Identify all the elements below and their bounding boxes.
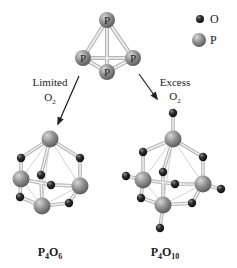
legend-oxygen-icon	[196, 15, 204, 23]
svg-text:P: P	[104, 14, 110, 26]
svg-text:P: P	[104, 66, 110, 78]
svg-text:P: P	[130, 52, 136, 64]
legend-phosphorus-icon	[192, 33, 206, 47]
svg-text:P: P	[80, 52, 86, 64]
p4o6-bonds	[20, 139, 80, 206]
p4o10-formula: P4O10	[151, 245, 180, 261]
p4o10-bonds	[126, 113, 221, 228]
arrow-excess-icon	[139, 74, 157, 99]
arrow-limited-label: Limited	[33, 76, 68, 88]
arrow-limited-reagent: O2	[44, 91, 56, 106]
p4-molecule: P P P P	[75, 12, 141, 80]
arrow-limited: Limited O2	[33, 76, 79, 124]
arrow-excess: Excess O2	[139, 74, 190, 105]
arrow-excess-label: Excess	[160, 76, 191, 88]
p4o6-formula: P4O6	[38, 245, 63, 261]
p4-atom-bottom: P	[99, 64, 115, 80]
legend-phosphorus-label: P	[210, 33, 217, 47]
phosphorus-oxides-diagram: P P P P O P Limited O2 Excess O2	[0, 0, 237, 268]
p4-atom-left: P	[75, 50, 91, 66]
p4o10-molecule: P4O10	[122, 109, 225, 261]
legend: O P	[192, 12, 219, 47]
legend-oxygen-label: O	[210, 12, 219, 26]
p4o6-molecule: P4O6	[13, 131, 89, 262]
p4-atom-right: P	[125, 50, 141, 66]
arrow-excess-reagent: O2	[169, 90, 181, 105]
p4-atom-top: P	[99, 12, 115, 28]
